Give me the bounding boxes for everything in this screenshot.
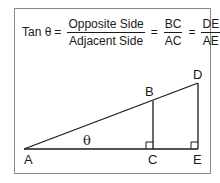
label-c: C bbox=[148, 152, 157, 167]
label-b: B bbox=[145, 84, 154, 99]
hypotenuse-line-ad bbox=[24, 83, 198, 149]
right-angle-marker-c bbox=[146, 142, 153, 149]
label-a: A bbox=[24, 152, 33, 167]
triangle-diagram: A B C D E θ bbox=[0, 0, 220, 183]
right-angle-marker-e bbox=[191, 142, 198, 149]
label-e: E bbox=[193, 152, 202, 167]
angle-theta-label: θ bbox=[83, 133, 91, 148]
label-d: D bbox=[193, 67, 202, 82]
